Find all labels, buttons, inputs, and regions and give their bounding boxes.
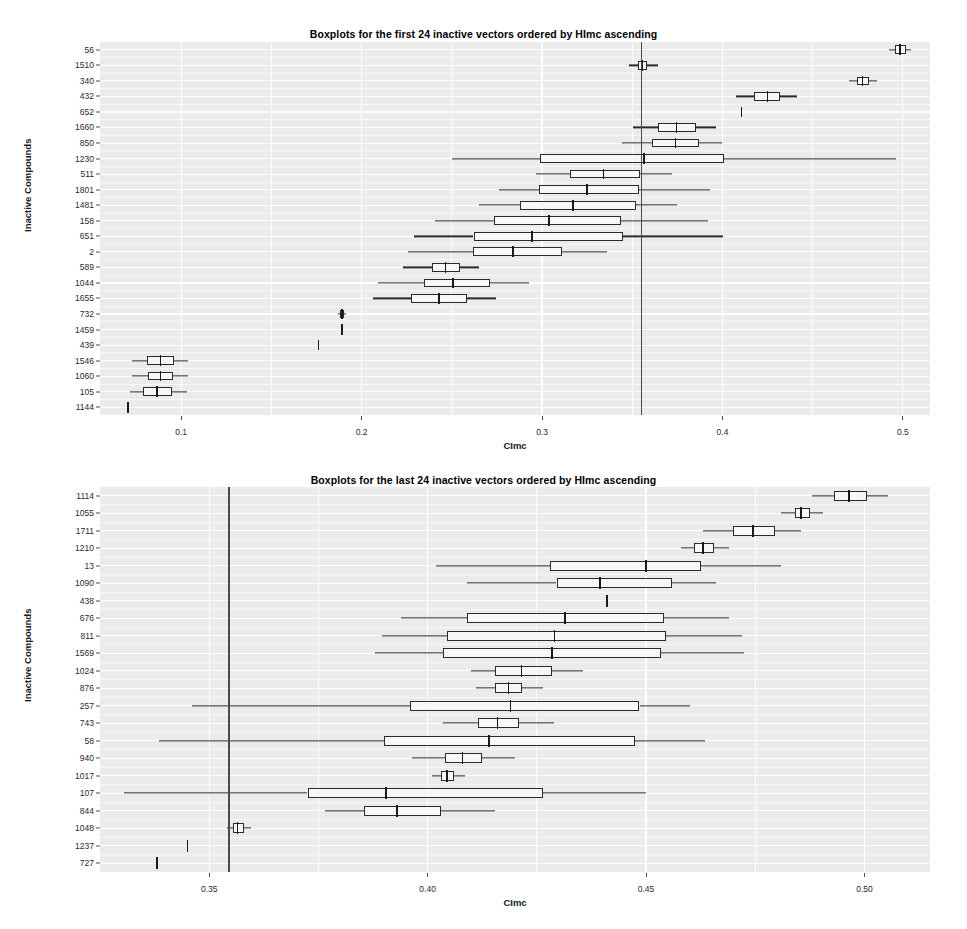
y-tick-mark	[96, 407, 100, 408]
whisker-low	[629, 65, 638, 66]
x-tick-label: 0.1	[161, 427, 201, 437]
y-tick-mark	[96, 513, 100, 514]
y-tick-label: 439	[54, 340, 94, 350]
boxplot-732	[100, 310, 930, 319]
whisker-high	[519, 723, 554, 724]
x-tick-mark	[427, 873, 428, 877]
gridline-horizontal-minor	[100, 802, 930, 803]
whisker-low	[382, 635, 448, 636]
median-line	[318, 340, 320, 351]
y-tick-mark	[96, 49, 100, 50]
whisker-high	[696, 127, 716, 128]
boxplot-1510	[100, 61, 930, 70]
boxplot-58	[100, 736, 930, 746]
y-tick-label: 940	[54, 753, 94, 763]
x-tick-label: 0.35	[189, 884, 229, 894]
median-line	[445, 262, 447, 273]
whisker-high	[552, 670, 583, 671]
y-tick-label: 1044	[54, 278, 94, 288]
whisker-high	[640, 705, 690, 706]
whisker-high	[522, 688, 544, 689]
y-tick-mark	[96, 298, 100, 299]
gridline-horizontal-minor	[100, 697, 930, 698]
median-line	[341, 324, 343, 335]
whisker-high	[639, 189, 710, 190]
boxplot-844	[100, 806, 930, 816]
whisker-low	[132, 376, 147, 377]
boxplot-1660	[100, 123, 930, 132]
y-tick-label: 340	[54, 76, 94, 86]
whisker-high	[635, 740, 705, 741]
y-tick-label: 589	[54, 262, 94, 272]
y-tick-label: 58	[54, 736, 94, 746]
gridline-horizontal-minor	[100, 119, 930, 120]
boxplot-1459	[100, 325, 930, 334]
y-tick-label: 1801	[54, 185, 94, 195]
median-line	[187, 840, 189, 852]
boxplot-1060	[100, 372, 930, 381]
whisker-high	[672, 583, 716, 584]
whisker-high	[636, 205, 678, 206]
whisker-low	[373, 298, 411, 299]
y-tick-mark	[96, 688, 100, 689]
gridline-horizontal-minor	[100, 767, 930, 768]
median-line	[531, 231, 533, 242]
gridline-horizontal-minor	[100, 399, 930, 400]
boxplot-1017	[100, 771, 930, 781]
median-line	[551, 647, 553, 659]
boxplot-13	[100, 561, 930, 571]
box-iqr	[520, 201, 635, 210]
boxplot-743	[100, 718, 930, 728]
y-tick-mark	[96, 828, 100, 829]
boxplot-439	[100, 341, 930, 350]
whisker-high	[441, 810, 496, 811]
box-iqr	[364, 806, 440, 816]
median-line	[127, 402, 129, 413]
box-iqr	[550, 561, 701, 571]
y-tick-label: 1060	[54, 371, 94, 381]
whisker-low	[325, 810, 364, 811]
whisker-low	[633, 127, 657, 128]
y-tick-label: 56	[54, 45, 94, 55]
box-iqr	[570, 170, 640, 179]
whisker-high	[714, 548, 729, 549]
y-tick-mark	[96, 775, 100, 776]
whisker-high	[543, 793, 646, 794]
whisker-low	[403, 267, 432, 268]
whisker-high	[174, 360, 188, 361]
y-tick-mark	[96, 313, 100, 314]
median-line	[899, 44, 901, 55]
gridline-horizontal-minor	[100, 275, 930, 276]
median-line	[160, 355, 162, 366]
y-tick-label: 1546	[54, 356, 94, 366]
whisker-high	[454, 775, 465, 776]
boxplot-105	[100, 387, 930, 396]
y-tick-mark	[96, 670, 100, 671]
gridline-horizontal-minor	[100, 837, 930, 838]
y-tick-label: 432	[54, 91, 94, 101]
box-iqr	[473, 247, 562, 256]
whisker-low	[736, 96, 754, 97]
gridline-horizontal-minor	[100, 522, 930, 523]
x-tick-label: 0.3	[522, 427, 562, 437]
y-tick-mark	[96, 376, 100, 377]
gridline-horizontal-minor	[100, 574, 930, 575]
y-tick-label: 107	[54, 788, 94, 798]
boxplot-page: Boxplots for the first 24 inactive vecto…	[0, 0, 967, 929]
gridline-horizontal-minor	[100, 228, 930, 229]
gridline-horizontal-minor	[100, 714, 930, 715]
y-tick-mark	[96, 329, 100, 330]
whisker-high	[661, 653, 744, 654]
median-line	[446, 770, 448, 782]
whisker-low	[476, 688, 496, 689]
whisker-low	[130, 391, 144, 392]
whisker-low	[499, 189, 540, 190]
x-tick-mark	[209, 873, 210, 877]
y-tick-mark	[96, 205, 100, 206]
y-tick-mark	[96, 653, 100, 654]
gridline-horizontal-minor	[100, 539, 930, 540]
plot-panel	[100, 42, 930, 415]
plot-panel	[100, 487, 930, 872]
boxplot-511	[100, 170, 930, 179]
x-tick-mark	[181, 416, 182, 420]
